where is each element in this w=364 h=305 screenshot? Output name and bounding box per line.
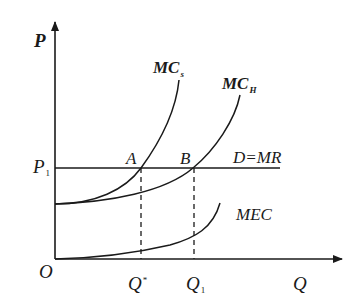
mch-label: MCH [222,75,256,95]
mcs-curve [55,80,179,204]
demand-mr-label: D=MR [233,149,281,166]
point-a-label: A [126,150,136,167]
point-b-label: B [180,150,190,167]
mch-curve [55,95,240,204]
price-p1-label: P1 [33,157,50,178]
x-axis-label: Q [293,274,307,293]
y-axis-label: P [34,31,46,50]
origin-label: O [39,262,53,281]
mec-curve [55,203,220,259]
mec-label: MEC [236,206,272,223]
q-star-label: Q* [128,274,147,293]
mcs-label: MCs [153,59,184,79]
q1-label: Q1 [186,274,205,295]
